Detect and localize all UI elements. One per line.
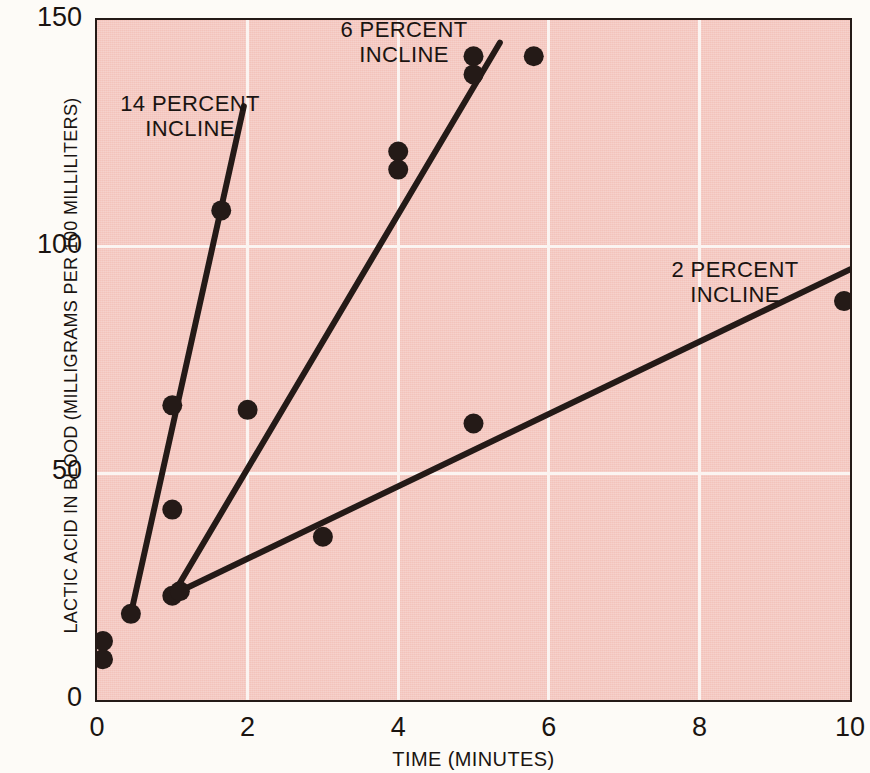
data-point xyxy=(162,395,182,415)
data-point xyxy=(162,500,182,520)
data-point xyxy=(388,160,408,180)
x-axis-tick-0: 0 xyxy=(67,712,127,743)
x-axis-tick-4: 4 xyxy=(368,712,428,743)
data-point xyxy=(121,604,141,624)
data-point xyxy=(97,631,113,651)
data-point xyxy=(170,581,190,601)
x-axis-tick-8: 8 xyxy=(669,712,729,743)
x-axis-tick-10: 10 xyxy=(820,712,870,743)
series-group xyxy=(170,269,850,601)
x-axis-title: TIME (MINUTES) xyxy=(95,748,852,771)
y-axis-title: LACTIC ACID IN BLOOD (MILLIGRAMS PER 100… xyxy=(61,16,82,716)
data-point xyxy=(238,400,258,420)
x-axis-tick-2: 2 xyxy=(218,712,278,743)
data-point xyxy=(834,291,850,311)
data-point xyxy=(313,527,333,547)
data-point xyxy=(464,413,484,433)
trend-line xyxy=(131,106,244,614)
plot-area: 14 PERCENT INCLINE6 PERCENT INCLINE2 PER… xyxy=(95,18,852,702)
data-point xyxy=(388,141,408,161)
data-point xyxy=(211,200,231,220)
series-label-6-percent-incline: 6 PERCENT INCLINE xyxy=(319,20,489,67)
data-point xyxy=(524,46,544,66)
series-label-2-percent-incline: 2 PERCENT INCLINE xyxy=(640,258,830,307)
series-group xyxy=(97,106,244,669)
data-point xyxy=(464,64,484,84)
series-label-14-percent-incline: 14 PERCENT INCLINE xyxy=(105,92,275,141)
x-axis-tick-6: 6 xyxy=(519,712,579,743)
chart-figure: 0 50 100 150 0 2 4 6 8 10 TIME (MINUTES)… xyxy=(0,0,870,773)
trend-line xyxy=(180,269,850,591)
data-point xyxy=(97,649,113,669)
